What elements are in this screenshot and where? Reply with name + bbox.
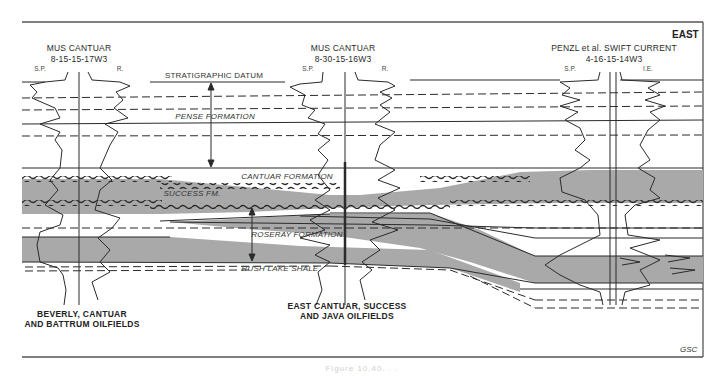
oilfields-2-line2: AND JAVA OILFIELDS [300,312,394,321]
formation-label-rush-lake: RUSH LAKE SHALE [242,265,319,273]
well-3-location: 4-16-15-14W3 [586,55,643,64]
direction-label: EAST [672,30,699,40]
well-2-location: 8-30-15-16W3 [315,55,372,64]
formation-label-cantuar: CANTUAR FORMATION [241,173,333,181]
figure-caption: Figure 10.40. . . [325,365,398,373]
well-1-location: 8-15-15-17W3 [51,55,108,64]
well-3-name: PENZL et al. SWIFT CURRENT [551,44,677,53]
well-1-log-r: R. [117,66,124,73]
well-3-log-sp: S.P. [564,66,575,73]
oilfields-1-line2: AND BATTRUM OILFIELDS [24,320,139,329]
oilfields-1-line1: BEVERLY, CANTUAR [37,310,127,319]
well-2-log-sp: S.P. [302,66,313,73]
well-3-log-ie: I.E. [643,66,653,73]
well-1-name: MUS CANTUAR [47,44,112,53]
formation-label-success: SUCCESS FM. [164,190,221,198]
stratigraphic-datum-label: STRATIGRAPHIC DATUM [165,72,263,80]
well-2-log-r: R. [382,66,389,73]
formation-label-pense: PENSE FORMATION [175,113,255,121]
well-1-log-sp: S.P. [34,66,45,73]
oilfields-2-line1: EAST CANTUAR, SUCCESS [287,302,406,311]
credit-label: GSC [680,346,697,354]
well-2-name: MUS CANTUAR [311,44,376,53]
formation-label-roseray: ROSERAY FORMATION [251,231,342,239]
